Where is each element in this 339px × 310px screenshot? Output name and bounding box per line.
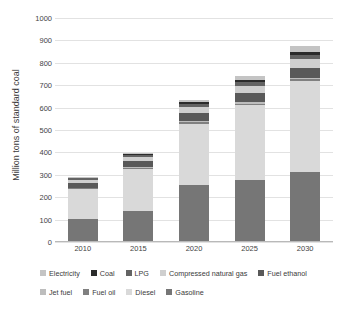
legend-swatch-icon	[166, 289, 172, 295]
stacked-bar-chart: Million tons of standard coal 0100200300…	[0, 0, 339, 310]
legend-item-compressed-natural-gas[interactable]: Compressed natural gas	[160, 269, 247, 278]
bar-group-2025[interactable]	[235, 18, 265, 242]
legend-label: Fuel oil	[92, 288, 115, 297]
bar-segment-gasoline[interactable]	[235, 180, 265, 242]
legend-swatch-icon	[126, 270, 132, 276]
y-axis-tick-label: 1000	[26, 14, 52, 23]
legend-swatch-icon	[160, 270, 166, 276]
legend-row-1: ElectricityCoalLPGCompressed natural gas…	[40, 266, 335, 280]
y-axis-tick-label: 300	[26, 170, 52, 179]
y-axis-tick-label: 900	[26, 36, 52, 45]
x-axis-tick-label: 2025	[241, 244, 258, 253]
bar-segment-gasoline[interactable]	[179, 185, 209, 242]
x-axis-line	[55, 241, 333, 242]
legend-swatch-icon	[83, 289, 89, 295]
bar-segment-diesel[interactable]	[123, 169, 153, 210]
legend-label: Fuel ethanol	[267, 269, 307, 278]
y-axis-ticks: 01002003004005006007008009001000	[22, 18, 52, 242]
legend-swatch-icon	[40, 289, 46, 295]
x-axis-ticks: 20102015202020252030	[55, 244, 333, 258]
legend-swatch-icon	[258, 270, 264, 276]
x-axis-tick-label: 2010	[74, 244, 91, 253]
y-axis-tick-label: 100	[26, 215, 52, 224]
bar-stack	[235, 76, 265, 242]
bar-segment-fuel-ethanol[interactable]	[235, 93, 265, 102]
bar-segment-compressed-natural-gas[interactable]	[235, 86, 265, 93]
x-axis-tick-label: 2015	[130, 244, 147, 253]
y-axis-tick-label: 0	[26, 238, 52, 247]
bar-segment-diesel[interactable]	[68, 189, 98, 219]
legend-item-lpg[interactable]: LPG	[126, 269, 149, 278]
bar-segment-fuel-ethanol[interactable]	[179, 113, 209, 122]
y-axis-tick-label: 200	[26, 193, 52, 202]
legend-item-diesel[interactable]: Diesel	[126, 288, 155, 297]
bar-segment-diesel[interactable]	[179, 124, 209, 186]
y-axis-tick-label: 400	[26, 148, 52, 157]
y-axis-title-text: Million tons of standard coal	[11, 69, 21, 181]
legend-item-electricity[interactable]: Electricity	[40, 269, 80, 278]
bar-stack	[123, 153, 153, 242]
legend-label: Gasoline	[175, 288, 203, 297]
legend-swatch-icon	[126, 289, 132, 295]
legend-label: Jet fuel	[49, 288, 72, 297]
bar-group-2015[interactable]	[123, 18, 153, 242]
legend-row-2: Jet fuelFuel oilDieselGasoline	[40, 285, 335, 299]
legend-swatch-icon	[91, 270, 97, 276]
gridline	[55, 242, 333, 243]
bar-segment-gasoline[interactable]	[290, 172, 320, 242]
legend-label: Compressed natural gas	[169, 269, 247, 278]
legend-label: Coal	[100, 269, 115, 278]
legend-item-fuel-ethanol[interactable]: Fuel ethanol	[258, 269, 307, 278]
legend-label: LPG	[135, 269, 149, 278]
legend-item-gasoline[interactable]: Gasoline	[166, 288, 203, 297]
legend-swatch-icon	[40, 270, 46, 276]
x-axis-tick-label: 2030	[297, 244, 314, 253]
legend-item-fuel-oil[interactable]: Fuel oil	[83, 288, 115, 297]
legend-label: Electricity	[49, 269, 80, 278]
plot-area	[55, 18, 333, 242]
bar-group-2010[interactable]	[68, 18, 98, 242]
x-axis-tick-label: 2020	[186, 244, 203, 253]
legend-item-jet-fuel[interactable]: Jet fuel	[40, 288, 72, 297]
bar-stack	[290, 46, 320, 242]
legend-item-coal[interactable]: Coal	[91, 269, 115, 278]
bar-segment-gasoline[interactable]	[123, 211, 153, 242]
bar-segment-diesel[interactable]	[235, 105, 265, 180]
bar-segment-gasoline[interactable]	[68, 219, 98, 242]
bar-stack	[68, 177, 98, 242]
bar-segment-fuel-ethanol[interactable]	[290, 68, 320, 79]
bar-segment-compressed-natural-gas[interactable]	[290, 59, 320, 68]
bars-layer	[55, 18, 333, 242]
chart-legend: ElectricityCoalLPGCompressed natural gas…	[40, 266, 335, 304]
y-axis-tick-label: 600	[26, 103, 52, 112]
bar-segment-electricity[interactable]	[290, 46, 320, 53]
bar-group-2020[interactable]	[179, 18, 209, 242]
y-axis-tick-label: 700	[26, 81, 52, 90]
bar-group-2030[interactable]	[290, 18, 320, 242]
bar-segment-diesel[interactable]	[290, 81, 320, 173]
y-axis-tick-label: 500	[26, 126, 52, 135]
bar-stack	[179, 100, 209, 242]
legend-label: Diesel	[135, 288, 155, 297]
y-axis-tick-label: 800	[26, 58, 52, 67]
